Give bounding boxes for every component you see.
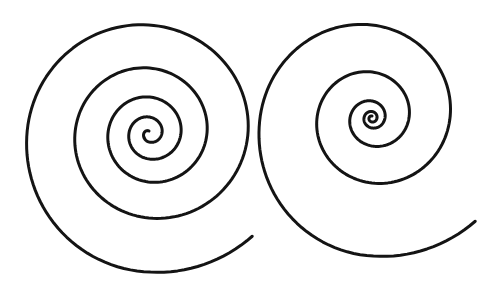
spirals-canvas	[0, 0, 500, 292]
